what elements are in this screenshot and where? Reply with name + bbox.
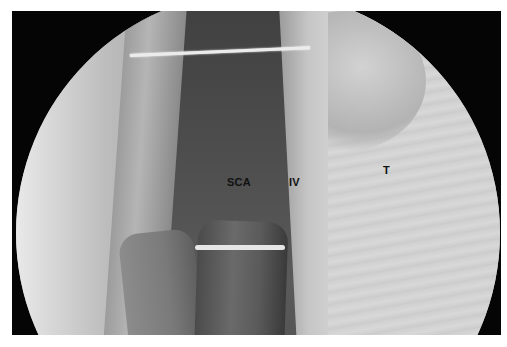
label-iv: IV xyxy=(289,176,300,188)
endoscope-field xyxy=(16,11,500,335)
crossing-ligament xyxy=(195,245,285,250)
central-vessel xyxy=(189,220,288,335)
label-t: T xyxy=(383,164,390,176)
image-frame xyxy=(12,11,501,335)
label-sca: SCA xyxy=(227,176,251,188)
